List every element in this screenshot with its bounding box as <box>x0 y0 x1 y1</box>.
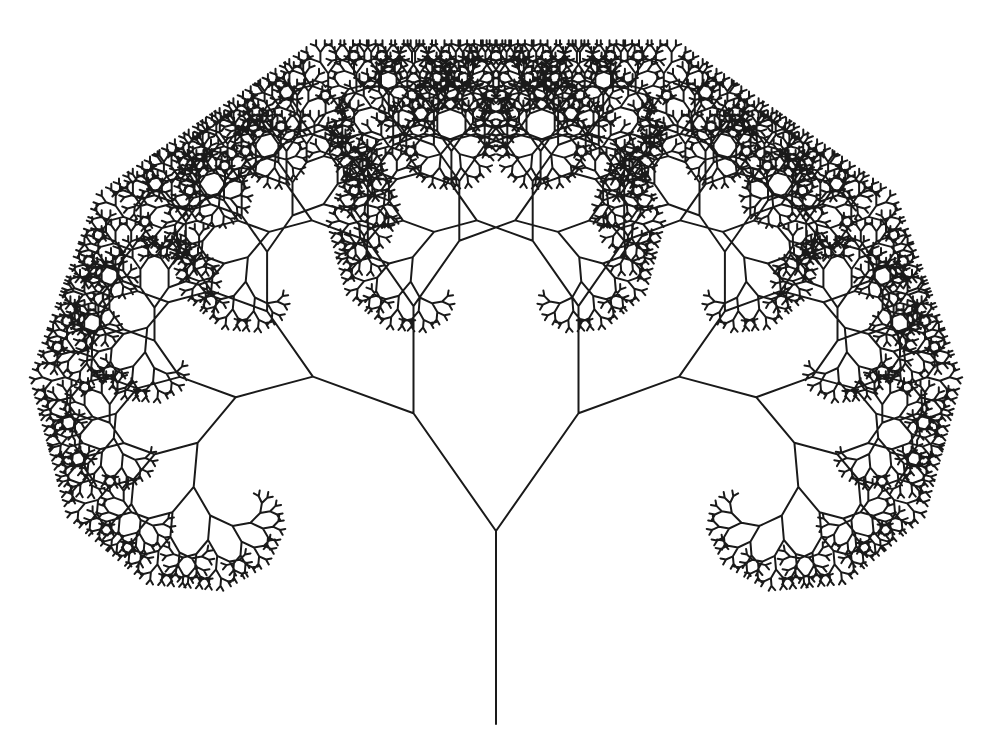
fractal-tree <box>0 0 991 751</box>
figure-canvas: Binary fractal tree <box>0 0 991 751</box>
